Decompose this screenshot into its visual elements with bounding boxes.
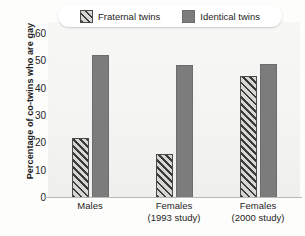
y-tick-label: 60 [2,28,46,39]
bar-identical[interactable] [92,55,109,199]
x-tick-label-line1: Males [77,200,102,211]
legend-item-label: Fraternal twins [98,11,160,22]
chart-root: Percentage of co-twins who are gay 01020… [0,0,305,236]
x-axis-tick-labels: MalesFemales(1993 study)Females(2000 stu… [48,200,300,223]
y-axis-tick-labels: 0102030405060 [0,0,46,236]
hatch-swatch-icon [80,10,93,23]
bar-groups [48,22,300,198]
bar-fraternal[interactable] [72,138,89,198]
solid-swatch-icon [182,10,195,23]
y-tick-label: 20 [2,137,46,148]
x-tick-label-line1: Females [240,200,276,211]
bar-fraternal[interactable] [156,154,173,198]
y-tick-label: 50 [2,55,46,66]
legend-item-label: Identical twins [200,11,260,22]
bar-fraternal[interactable] [240,76,257,198]
x-tick-label: Females(1993 study) [135,200,213,223]
legend-item[interactable]: Identical twins [182,10,260,23]
x-axis-line [44,197,302,198]
bar-group [156,22,193,198]
x-tick-label-line2: (2000 study) [219,212,297,224]
chart-legend: Fraternal twinsIdentical twins [58,5,282,27]
x-tick-label-line1: Females [156,200,192,211]
y-tick-label: 30 [2,110,46,121]
y-tick-label: 10 [2,164,46,175]
bar-group [72,22,109,198]
bar-identical[interactable] [260,64,277,198]
legend-item[interactable]: Fraternal twins [80,10,160,23]
x-tick-label-line2: (1993 study) [135,212,213,224]
bar-identical[interactable] [176,65,193,198]
plot-area [48,22,300,198]
x-tick-label: Males [51,200,129,223]
y-tick-label: 0 [2,192,46,203]
bar-group [240,22,277,198]
y-tick-label: 40 [2,82,46,93]
x-tick-label: Females(2000 study) [219,200,297,223]
